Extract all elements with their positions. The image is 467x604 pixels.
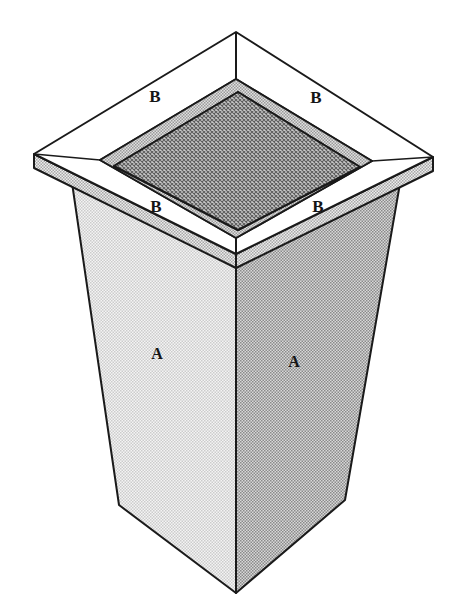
body-label-a-right: A [288, 353, 300, 370]
flange-label-b-bottom-right: B [312, 197, 323, 216]
flange-label-b-top-left: B [149, 87, 160, 106]
body-label-a-left: A [151, 345, 163, 362]
vessel-diagram-root: B B B B A A [0, 0, 467, 604]
vessel-isometric-drawing: B B B B A A [0, 0, 467, 604]
flange-label-b-bottom-left: B [150, 197, 161, 216]
flange-label-b-top-right: B [310, 88, 321, 107]
